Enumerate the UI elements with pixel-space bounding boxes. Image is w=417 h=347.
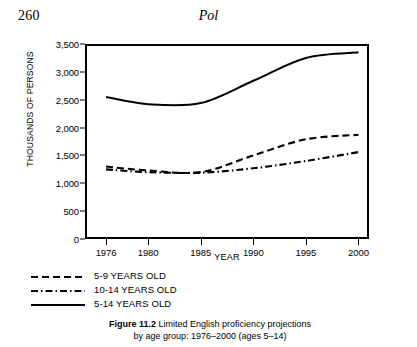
caption-subtitle: by age group: 1976–2000 (ages 5–14) (40, 330, 380, 342)
series-line-5-14-years-old (106, 52, 358, 105)
legend-label-5-14: 5-14 YEARS OLD (94, 298, 171, 309)
y-tick-label: 2,500 (35, 94, 79, 105)
page-root: 260 Pol THOUSANDS OF PERSONS 05001,0001,… (0, 0, 417, 347)
plot-lines (85, 44, 369, 239)
x-tick-mark (306, 239, 307, 245)
chart-legend: 5-9 YEARS OLD 10-14 YEARS OLD 5-14 YEARS… (30, 268, 250, 310)
x-tick-label: 1976 (86, 247, 126, 258)
legend-swatch-dashdot (30, 283, 86, 295)
running-head: 260 Pol (0, 8, 417, 28)
legend-item-5-14: 5-14 YEARS OLD (30, 296, 250, 310)
caption-title: Limited English proficiency projections (158, 319, 311, 329)
y-tick-label: 0 (35, 234, 79, 245)
x-tick-mark (201, 239, 202, 245)
y-tick-label: 2,000 (35, 122, 79, 133)
series-line-5-9-years-old (106, 135, 358, 173)
running-title: Pol (0, 8, 417, 24)
legend-item-10-14: 10-14 YEARS OLD (30, 282, 250, 296)
y-tick-label: 1,000 (35, 178, 79, 189)
legend-label-10-14: 10-14 YEARS OLD (94, 284, 177, 295)
y-tick-label: 500 (35, 206, 79, 217)
x-tick-mark (148, 239, 149, 245)
y-tick-label: 1,500 (35, 150, 79, 161)
figure-11-2: THOUSANDS OF PERSONS 05001,0001,5002,000… (0, 30, 417, 347)
legend-label-5-9: 5-9 YEARS OLD (94, 270, 166, 281)
legend-swatch-dashed (30, 269, 86, 281)
x-tick-mark (106, 239, 107, 245)
x-axis-title: YEAR (177, 252, 277, 262)
x-tick-mark (253, 239, 254, 245)
y-tick-label: 3,500 (35, 39, 79, 50)
y-tick-label: 3,000 (35, 66, 79, 77)
x-tick-label: 2000 (338, 247, 378, 258)
x-tick-label: 1995 (286, 247, 326, 258)
caption-figure-number: Figure 11.2 (109, 319, 156, 329)
x-tick-label: 1980 (128, 247, 168, 258)
legend-swatch-solid (30, 297, 86, 309)
x-tick-mark (358, 239, 359, 245)
figure-caption: Figure 11.2 Limited English proficiency … (40, 318, 380, 342)
legend-item-5-9: 5-9 YEARS OLD (30, 268, 250, 282)
y-axis-title: THOUSANDS OF PERSONS (25, 19, 35, 199)
